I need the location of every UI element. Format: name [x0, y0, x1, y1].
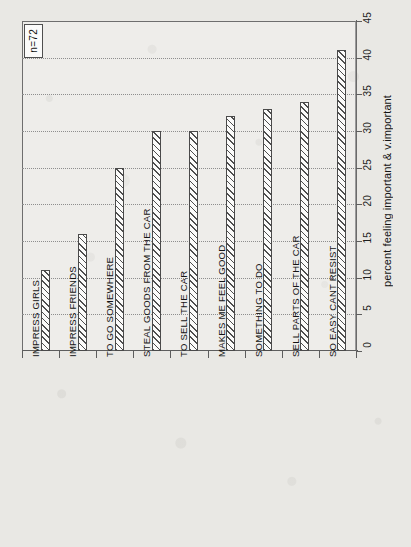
category-label: MAKES ME FEEL GOOD [216, 245, 227, 357]
y-tick-label-10: 10 [362, 269, 373, 281]
x-tick-2 [96, 351, 97, 358]
x-tick-4 [170, 351, 171, 358]
category-label: TO SELL THE CAR [178, 271, 189, 357]
x-tick-8 [319, 351, 320, 358]
bar [263, 109, 272, 351]
x-tick-end [356, 351, 357, 358]
bar [337, 50, 346, 351]
y-tick-label-45: 45 [362, 12, 373, 24]
category-label: STEAL GOODS FROM THE CAR [141, 208, 152, 357]
y-tick-label-0: 0 [362, 342, 373, 348]
bar [226, 116, 235, 351]
category-label: SO EASY CANT RESIST [327, 245, 338, 357]
sample-size-annotation: n=72 [24, 24, 43, 58]
bar [115, 168, 124, 351]
y-tick-label-20: 20 [362, 195, 373, 207]
x-tick-6 [245, 351, 246, 358]
category-label: SOMETHING TO DO [253, 263, 264, 357]
category-label: IMPRESS GIRLS [30, 280, 41, 357]
x-tick-5 [208, 351, 209, 358]
y-tick-label-5: 5 [362, 305, 373, 311]
bar-chart: 051015202530354045 IMPRESS GIRLSIMPRESS … [0, 0, 411, 547]
y-axis-line [356, 20, 357, 352]
y-tick-label-15: 15 [362, 232, 373, 244]
y-axis-title: percent feeling important & v.important [381, 95, 393, 287]
category-label: IMPRESS FRIENDS [67, 266, 78, 357]
bar [152, 131, 161, 351]
y-tick-label-40: 40 [362, 49, 373, 61]
y-tick-5 [356, 314, 362, 315]
y-tick-label-30: 30 [362, 122, 373, 134]
x-tick-3 [133, 351, 134, 358]
bar [189, 131, 198, 351]
category-label: TO GO SOMEWHERE [104, 257, 115, 357]
bar [41, 270, 50, 351]
y-tick-label-25: 25 [362, 159, 373, 171]
category-label: SELL PARTS OF THE CAR [290, 235, 301, 357]
x-tick-0 [22, 351, 23, 358]
bar [78, 234, 87, 351]
sample-size-text: n=72 [28, 29, 39, 53]
y-tick-label-35: 35 [362, 85, 373, 97]
x-tick-1 [59, 351, 60, 358]
x-tick-7 [282, 351, 283, 358]
bar [300, 102, 309, 351]
